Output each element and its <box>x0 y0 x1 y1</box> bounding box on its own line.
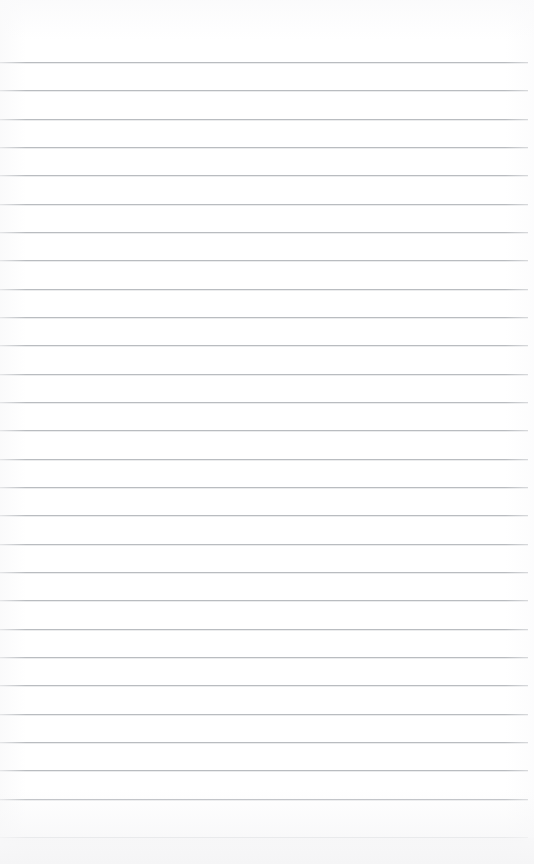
ruling-line <box>0 770 528 771</box>
ruling-line <box>0 714 528 715</box>
ruling-line <box>0 657 528 658</box>
ruling-line <box>0 147 528 148</box>
ruling-line <box>0 289 528 290</box>
ruling-line <box>0 260 528 261</box>
ruling-line <box>0 544 528 545</box>
ruling-line <box>0 204 528 205</box>
ruling-line <box>0 402 528 403</box>
ruling-line <box>0 600 528 601</box>
top-margin <box>0 0 534 61</box>
ruling-line <box>0 572 528 573</box>
ruling-line <box>0 62 528 63</box>
paper-texture <box>0 0 534 864</box>
ruling-line <box>0 487 528 488</box>
ruling-line <box>0 459 528 460</box>
ruling-line <box>0 175 528 176</box>
ruling-line <box>0 799 528 800</box>
ruling-line <box>0 90 528 91</box>
ruling-line <box>0 119 528 120</box>
ruling-line <box>0 629 528 630</box>
ruling-line <box>0 515 528 516</box>
ruling-line <box>0 430 528 431</box>
ruling-line <box>0 742 528 743</box>
ruling-line <box>0 317 528 318</box>
ruling-line <box>0 345 528 346</box>
ruling-line <box>0 232 528 233</box>
ruling-line <box>0 374 528 375</box>
ruling-line <box>0 685 528 686</box>
bottom-margin <box>0 838 534 864</box>
lined-paper-sheet <box>0 0 534 864</box>
